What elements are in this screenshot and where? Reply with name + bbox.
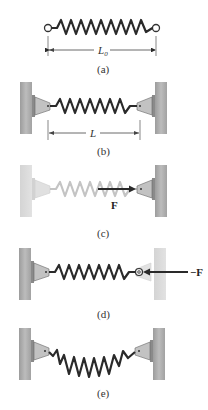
length-label-L0: L0 [97,44,108,58]
end-loop-right [153,25,160,32]
caption-e: (e) [97,387,110,400]
spring-coil-compressed [49,350,135,377]
wall-left [19,328,31,380]
wall-left-faded [20,165,32,217]
spring-force-diagram: L0 (a) L (b) F (c) [0,0,208,410]
force-label-minus-F: −F [190,266,203,278]
caption-d: (d) [97,308,110,321]
bracket-right [137,180,152,198]
panel-a: L0 (a) [45,20,160,76]
wall-left [19,248,31,300]
wall-left [20,82,32,134]
panel-d: −F (d) [19,248,203,321]
caption-a: (a) [97,63,110,76]
wall-right [153,328,165,380]
caption-c: (c) [97,227,110,240]
end-loop-right [136,269,143,276]
end-loop-left [45,25,52,32]
panel-e: (e) [19,328,165,400]
spring-coil [49,265,135,279]
caption-b: (b) [97,145,110,158]
wall-right [155,165,167,217]
force-label-F: F [111,199,118,211]
bracket-right [135,342,150,360]
bracket-left [34,342,49,360]
panel-c: F (c) [20,165,167,240]
panel-b: L (b) [20,82,167,158]
wall-right-faded [154,248,166,300]
wall-right [155,82,167,134]
spring-coil [52,20,153,34]
length-label-L: L [89,127,96,139]
spring-coil [50,99,137,113]
